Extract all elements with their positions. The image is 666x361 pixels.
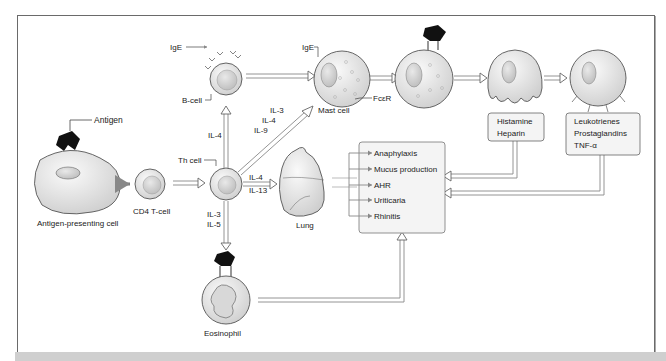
cytokine-il3-mast: IL-3 — [270, 106, 284, 115]
cytokine-il13-lung: IL-13 — [249, 186, 268, 195]
outcomes-box: Anaphylaxis Mucus production AHR Uritica… — [349, 142, 445, 233]
leukotrienes-box: Leukotrienes Prostaglandins TNF-α — [566, 113, 640, 155]
histamine-box: Histamine Heparin — [488, 113, 544, 141]
outcome-item: Uriticaria — [374, 196, 406, 205]
diagram-canvas: Antigen Antigen-presenting cell CD4 T-ce… — [0, 0, 666, 361]
outcome-item: Anaphylaxis — [374, 149, 417, 158]
mediator-histamine: Histamine — [497, 117, 533, 126]
cytokine-il3-eos: IL-3 — [207, 210, 221, 219]
mast-cell-antigen-bound — [395, 25, 453, 108]
ige-b-label: IgE — [170, 43, 182, 52]
outcome-item: AHR — [374, 181, 391, 190]
cytokine-il4-bcell: IL-4 — [208, 131, 222, 140]
b-cell — [186, 47, 242, 100]
cd4-label: CD4 T-cell — [133, 207, 170, 216]
antigen-presenting-cell — [34, 150, 120, 213]
cytokine-il5-eos: IL-5 — [207, 220, 221, 229]
antigen-icon — [56, 120, 92, 151]
cytokine-il4-mast: IL-4 — [262, 116, 276, 125]
th-cell-label: Th cell — [178, 156, 202, 165]
fcer-label: FcεR — [373, 94, 391, 103]
mast-cell-label: Mast cell — [318, 106, 350, 115]
apc-label: Antigen-presenting cell — [37, 219, 119, 228]
cytokine-il4-lung: IL-4 — [249, 173, 263, 182]
mast-cell — [314, 47, 372, 107]
lung-icon — [279, 147, 324, 216]
synthesizing-mast-cell — [570, 50, 626, 112]
cd4-t-cell — [135, 169, 165, 199]
outcome-item: Mucus production — [374, 165, 437, 174]
eosinophil-label: Eosinophil — [204, 329, 241, 338]
mediator-prostaglandins: Prostaglandins — [574, 129, 627, 138]
mediator-leukotrienes: Leukotrienes — [574, 117, 620, 126]
th-cell — [204, 160, 242, 200]
antigen-label: Antigen — [94, 115, 123, 125]
ige-mast-label: IgE — [302, 43, 314, 52]
degranulating-mast-cell — [488, 50, 542, 103]
outcome-item: Rhinitis — [374, 212, 400, 221]
mediator-heparin: Heparin — [497, 129, 525, 138]
mediator-tnf-alpha: TNF-α — [574, 141, 597, 150]
b-cell-label: B-cell — [182, 96, 202, 105]
cytokine-il9-mast: IL-9 — [254, 126, 268, 135]
eosinophil — [202, 251, 250, 324]
lung-label: Lung — [296, 221, 314, 230]
